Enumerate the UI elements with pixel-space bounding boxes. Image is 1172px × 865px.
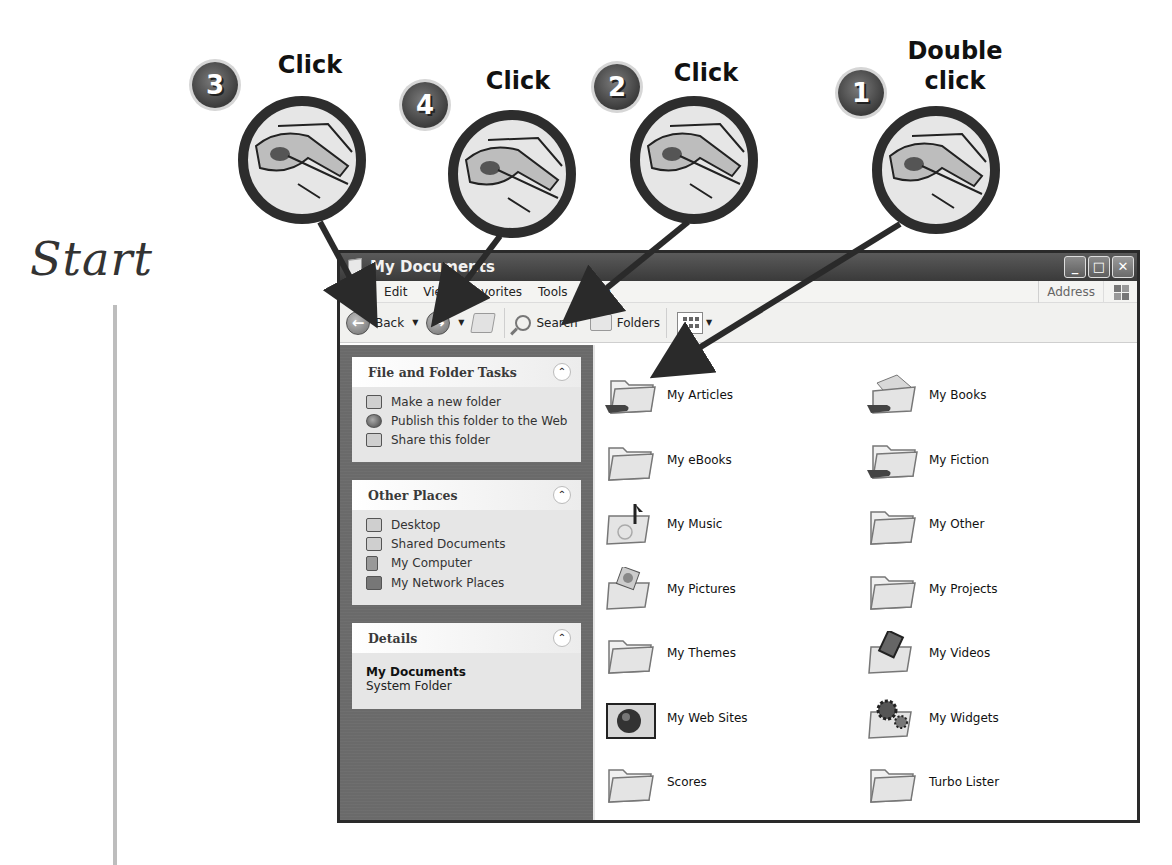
step-label-3: Click	[270, 50, 350, 80]
folder-label: My eBooks	[667, 453, 732, 467]
folder-icon	[867, 760, 919, 804]
folder-grid: My ArticlesMy BooksMy eBooksMy FictionMy…	[605, 363, 1137, 815]
step-label-1: Double click	[905, 36, 1005, 96]
videos-folder-icon	[867, 631, 919, 675]
collapse-chevron-icon[interactable]: ⌃	[553, 363, 571, 381]
folder-item[interactable]: My Themes	[605, 621, 867, 686]
toolbar-separator	[666, 308, 667, 338]
views-icon[interactable]	[677, 312, 703, 334]
windows-logo-icon	[1103, 281, 1137, 303]
place-label: Desktop	[391, 518, 441, 532]
folder-icon	[366, 537, 382, 551]
folder-item[interactable]: Scores	[605, 750, 867, 815]
widgets-folder-icon	[867, 696, 919, 740]
back-dropdown-arrow-icon[interactable]: ▼	[412, 318, 418, 327]
folder-item[interactable]: My Videos	[867, 621, 1129, 686]
forward-button[interactable]: →	[426, 311, 450, 335]
address-label[interactable]: Address	[1038, 281, 1103, 303]
start-line	[113, 305, 117, 865]
folder-item[interactable]: My Articles	[605, 363, 867, 428]
menu-favorites[interactable]: Favorites	[460, 285, 530, 299]
folder-icon	[867, 502, 919, 546]
folder-icon	[605, 631, 657, 675]
task-make-new-folder[interactable]: Make a new folder	[366, 395, 569, 409]
task-pane: File and Folder Tasks ⌃ Make a new folde…	[340, 345, 595, 820]
menu-tools[interactable]: Tools	[530, 285, 576, 299]
minimize-button[interactable]: _	[1064, 256, 1086, 278]
toolbar: ← Back ▼ → ▼ Search Folders ▼	[340, 303, 1137, 343]
step-badge-4: 4	[402, 82, 448, 128]
back-button[interactable]: ←	[346, 311, 370, 335]
folder-item[interactable]: My Fiction	[867, 428, 1129, 493]
folder-item[interactable]: My Widgets	[867, 686, 1129, 751]
menu-edit[interactable]: Edit	[376, 285, 415, 299]
folder-item[interactable]: My Web Sites	[605, 686, 867, 751]
folder-item[interactable]: My Projects	[867, 557, 1129, 622]
folder-item[interactable]: My Music	[605, 492, 867, 557]
network-icon	[366, 576, 382, 590]
shared-folder-icon	[605, 373, 657, 417]
step-label-4: Click	[478, 66, 558, 96]
web-folder-icon	[605, 696, 657, 740]
task-share-folder[interactable]: Share this folder	[366, 433, 569, 447]
place-my-computer[interactable]: My Computer	[366, 556, 569, 571]
folder-label: My Widgets	[929, 711, 999, 725]
menu-file[interactable]: File	[340, 285, 376, 299]
explorer-window: My Documents _ □ ✕ File Edit View Favori…	[337, 250, 1140, 823]
folder-label: My Pictures	[667, 582, 736, 596]
mouse-click-magnifier-icon	[630, 96, 758, 224]
folder-label: Turbo Lister	[929, 775, 999, 789]
up-folder-button[interactable]	[471, 313, 497, 333]
folder-label: My Projects	[929, 582, 998, 596]
maximize-button[interactable]: □	[1088, 256, 1110, 278]
back-label[interactable]: Back	[375, 316, 404, 330]
task-publish-to-web[interactable]: Publish this folder to the Web	[366, 414, 569, 428]
folder-label: My Articles	[667, 388, 733, 402]
menu-view[interactable]: View	[415, 285, 459, 299]
folder-item[interactable]: My eBooks	[605, 428, 867, 493]
panel-header[interactable]: Details ⌃	[352, 623, 581, 653]
folder-label: My Fiction	[929, 453, 989, 467]
search-button[interactable]: Search	[536, 316, 577, 330]
step-badge-2: 2	[594, 64, 640, 110]
folder-item[interactable]: My Books	[867, 363, 1129, 428]
globe-icon	[366, 414, 382, 428]
panel-header[interactable]: File and Folder Tasks ⌃	[352, 357, 581, 387]
collapse-chevron-icon[interactable]: ⌃	[553, 629, 571, 647]
window-controls: _ □ ✕	[1064, 256, 1137, 278]
step-label-1-line1: Double	[905, 36, 1005, 66]
folder-icon	[605, 438, 657, 482]
title-bar[interactable]: My Documents _ □ ✕	[340, 253, 1137, 281]
other-places-panel: Other Places ⌃ Desktop Shared Documents …	[352, 480, 581, 605]
folders-icon[interactable]	[590, 314, 612, 331]
task-label: Share this folder	[391, 433, 490, 447]
window-body: File and Folder Tasks ⌃ Make a new folde…	[340, 345, 1137, 820]
collapse-chevron-icon[interactable]: ⌃	[553, 486, 571, 504]
folder-label: My Books	[929, 388, 986, 402]
computer-icon	[366, 556, 378, 571]
step-label-1-line2: click	[905, 66, 1005, 96]
new-folder-icon	[366, 395, 382, 409]
folder-item[interactable]: My Pictures	[605, 557, 867, 622]
menu-help[interactable]: Help	[576, 285, 619, 299]
search-icon[interactable]	[515, 315, 531, 331]
place-shared-documents[interactable]: Shared Documents	[366, 537, 569, 551]
task-label: Publish this folder to the Web	[391, 414, 567, 428]
window-title: My Documents	[370, 258, 495, 276]
place-desktop[interactable]: Desktop	[366, 518, 569, 532]
close-button[interactable]: ✕	[1112, 256, 1134, 278]
place-label: My Network Places	[391, 576, 504, 590]
mouse-click-magnifier-icon	[872, 106, 1000, 234]
folder-item[interactable]: My Other	[867, 492, 1129, 557]
folders-button[interactable]: Folders	[617, 316, 660, 330]
file-folder-tasks-panel: File and Folder Tasks ⌃ Make a new folde…	[352, 357, 581, 462]
folder-item[interactable]: Turbo Lister	[867, 750, 1129, 815]
folder-label: My Other	[929, 517, 984, 531]
panel-header[interactable]: Other Places ⌃	[352, 480, 581, 510]
mouse-click-magnifier-icon	[238, 96, 366, 224]
views-dropdown-arrow-icon[interactable]: ▼	[706, 318, 712, 327]
place-my-network-places[interactable]: My Network Places	[366, 576, 569, 590]
folder-label: Scores	[667, 775, 707, 789]
forward-dropdown-arrow-icon[interactable]: ▼	[458, 318, 464, 327]
shared-folder-icon	[867, 438, 919, 482]
